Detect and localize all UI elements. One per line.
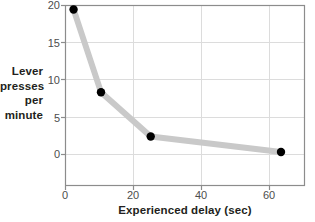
x-axis-ticks: [66, 186, 270, 190]
data-point-2: [147, 132, 155, 140]
chart-figure: Lever presses per minute 20 15 10 5 0 0 …: [0, 0, 315, 222]
y-axis-ticks: [61, 6, 65, 155]
data-point-0: [69, 5, 77, 13]
plot-area: [0, 0, 315, 222]
data-point-3: [277, 148, 285, 156]
data-point-1: [97, 88, 105, 96]
